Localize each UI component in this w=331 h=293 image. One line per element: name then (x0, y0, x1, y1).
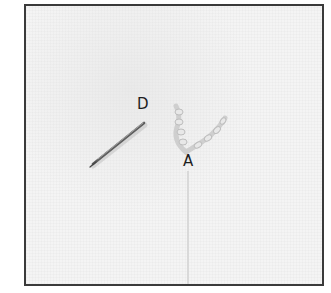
point-label-d: D (137, 95, 149, 113)
needle-icon (90, 123, 144, 167)
point-label-a: A (183, 152, 193, 170)
twisted-stitch (175, 106, 227, 152)
needle-shadow (93, 125, 145, 166)
embroidery-illustration (26, 6, 324, 286)
photo-frame: D A (24, 4, 324, 286)
